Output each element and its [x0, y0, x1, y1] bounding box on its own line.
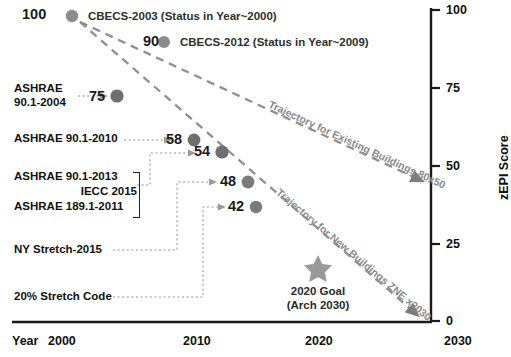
- value-label-54: 54: [194, 143, 210, 159]
- y-tick-25: 25: [446, 237, 460, 251]
- point-cbecs-2003: [66, 10, 78, 22]
- value-label-75: 75: [89, 88, 105, 104]
- value-label-58: 58: [166, 131, 182, 147]
- label-ashrae-90-1-2004: ASHRAE 90.1-2004: [14, 82, 66, 109]
- y-tick-50: 50: [446, 159, 460, 173]
- label-ashrae-189-1-2011: ASHRAE 189.1-2011: [14, 200, 123, 214]
- x-tick-2010: 2010: [183, 334, 211, 348]
- label-20-percent-stretch-code: 20% Stretch Code: [14, 290, 112, 304]
- legend-value-100: 100: [22, 6, 46, 22]
- point-cbecs-2012: [158, 36, 170, 48]
- legend-label-cbecs-2003: CBECS-2003 (Status in Year~2000): [88, 10, 277, 22]
- value-label-42: 42: [228, 198, 244, 214]
- point-42: [250, 201, 262, 213]
- label-ashrae-90-1-2010: ASHRAE 90.1-2010: [14, 132, 118, 146]
- x-tick-2030: 2030: [444, 334, 472, 348]
- x-tick-2020: 2020: [305, 334, 333, 348]
- y-tick-100: 100: [446, 3, 467, 17]
- point-75: [110, 89, 123, 102]
- value-label-48: 48: [220, 173, 236, 189]
- y-axis-title: zEPI Score: [497, 135, 511, 200]
- label-ashrae-90-1-2013: ASHRAE 90.1-2013: [14, 170, 118, 184]
- point-54: [215, 145, 228, 158]
- label-ny-stretch-2015: NY Stretch-2015: [14, 243, 102, 257]
- goal-title: 2020 Goal: [268, 284, 368, 298]
- point-48: [242, 176, 255, 189]
- x-tick-2000: 2000: [48, 334, 76, 348]
- label-iecc-2015: IECC 2015: [14, 185, 137, 199]
- code-group-bracket: [133, 172, 140, 218]
- y-tick-0: 0: [446, 314, 453, 328]
- x-axis-title: Year: [12, 334, 38, 348]
- goal-star-icon: [304, 255, 332, 282]
- y-tick-75: 75: [446, 81, 460, 95]
- legend-value-90: 90: [143, 33, 159, 49]
- goal-subtitle: (Arch 2030): [268, 298, 368, 312]
- legend-label-cbecs-2012: CBECS-2012 (Status in Year~2009): [180, 36, 369, 48]
